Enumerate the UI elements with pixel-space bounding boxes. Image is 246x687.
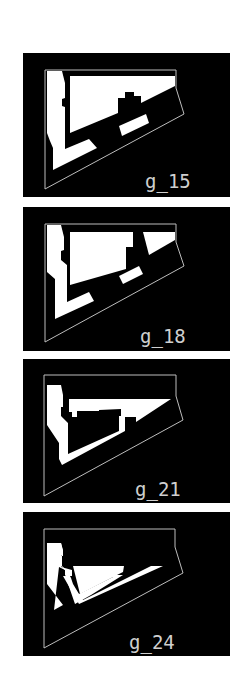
panel-g18: g_18: [23, 207, 230, 351]
site-plan-g24: [23, 512, 230, 656]
site-plan-g21: [23, 359, 230, 503]
building-bar: [119, 114, 149, 136]
site-plan-g18: [23, 207, 230, 351]
panel-label: g_24: [129, 633, 175, 652]
site-plan-g15: [23, 53, 230, 197]
panel-label: g_18: [140, 327, 186, 346]
building-east-block: [143, 232, 175, 255]
building-west-wing: [47, 385, 125, 465]
panel-label: g_21: [135, 480, 181, 499]
panel-g21: g_21: [23, 359, 230, 503]
panel-label: g_15: [145, 172, 191, 191]
panel-g24: g_24: [23, 512, 230, 656]
panel-g15: g_15: [23, 53, 230, 197]
